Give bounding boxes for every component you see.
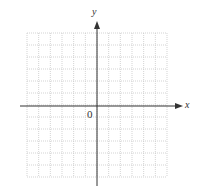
x-axis-label: x [185, 100, 189, 110]
x-axis-arrow-icon [175, 103, 183, 109]
x-axis [20, 103, 183, 109]
y-axis-label: y [92, 7, 96, 17]
coordinate-grid [0, 0, 198, 186]
origin-label: 0 [87, 109, 93, 120]
y-axis [94, 21, 100, 186]
y-axis-arrow-icon [94, 21, 100, 29]
